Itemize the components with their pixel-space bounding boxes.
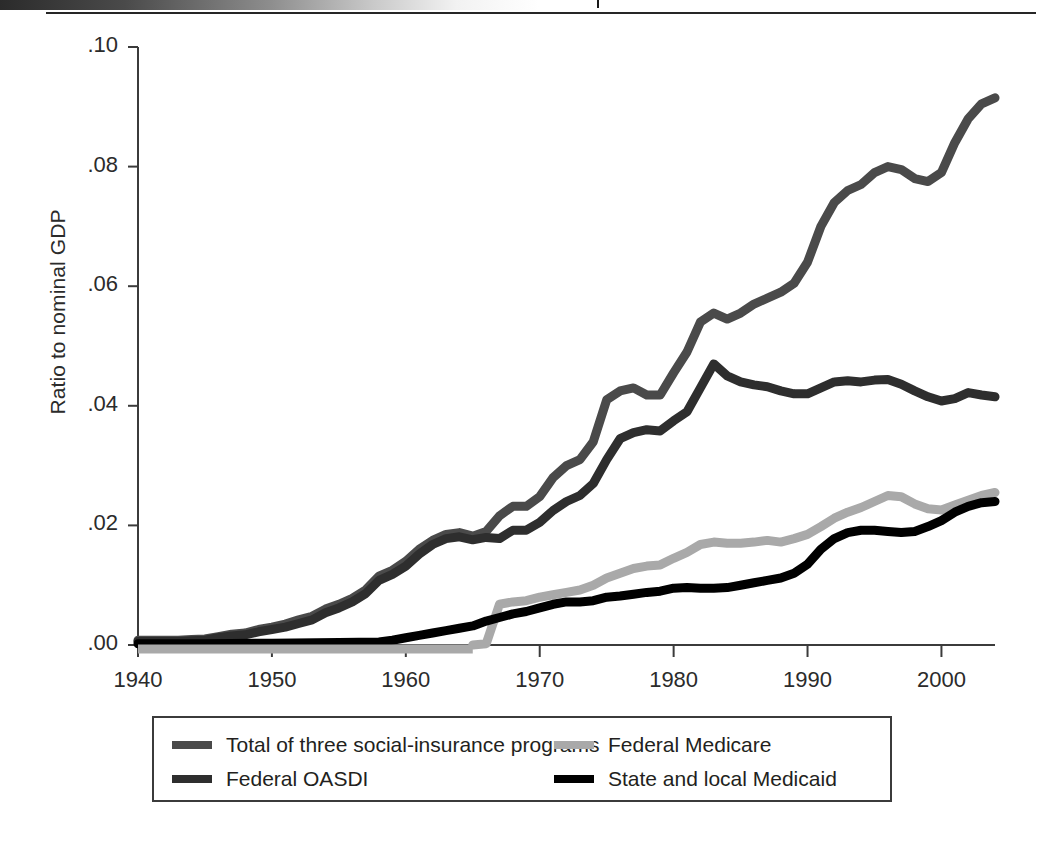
chart-plot-area xyxy=(0,0,1037,841)
legend-item-label: State and local Medicaid xyxy=(608,767,837,791)
series-line-medicaid xyxy=(138,502,995,644)
chart-legend: Total of three social-insurance programs… xyxy=(152,716,892,802)
legend-item: Federal OASDI xyxy=(172,764,368,794)
legend-item: Total of three social-insurance programs xyxy=(172,730,600,760)
legend-color-swatch xyxy=(554,741,594,749)
chart-figure: Ratio to nominal GDP .00.02.04.06.08.10 … xyxy=(0,0,1037,841)
legend-item-label: Total of three social-insurance programs xyxy=(226,733,600,757)
legend-color-swatch xyxy=(172,775,212,783)
legend-item: Federal Medicare xyxy=(554,730,771,760)
series-line-total xyxy=(138,98,995,640)
legend-item-label: Federal OASDI xyxy=(226,767,368,791)
legend-item-label: Federal Medicare xyxy=(608,733,771,757)
legend-item: State and local Medicaid xyxy=(554,764,837,794)
legend-color-swatch xyxy=(172,741,212,749)
legend-color-swatch xyxy=(554,775,594,783)
